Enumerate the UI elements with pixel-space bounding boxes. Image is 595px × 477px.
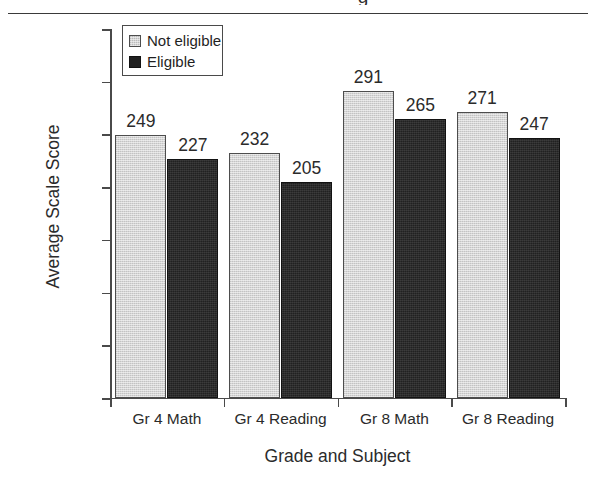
- legend-entry-not-eligible: Not eligible: [129, 30, 217, 51]
- bar-gr-4-reading-eligible: [281, 182, 332, 398]
- bar-value-label: 291: [337, 67, 400, 88]
- y-axis-title: Average Scale Score: [43, 57, 64, 357]
- legend-label-eligible: Eligible: [147, 53, 195, 70]
- bar-value-label: 249: [109, 111, 172, 132]
- x-axis-title: Grade and Subject: [110, 446, 565, 467]
- clipped-title-descender: g: [352, 0, 374, 5]
- x-category-label: Gr 8 Reading: [451, 410, 565, 428]
- x-tick-mark: [224, 398, 226, 407]
- top-divider-rule: [8, 13, 588, 14]
- bar-value-label: 205: [275, 158, 338, 179]
- x-category-label: Gr 4 Reading: [224, 410, 338, 428]
- x-tick-mark: [451, 398, 453, 407]
- bar-gr-4-reading-not-eligible: [229, 153, 280, 398]
- x-category-label: Gr 4 Math: [110, 410, 224, 428]
- bar-gr-8-math-not-eligible: [343, 91, 394, 398]
- chart-legend: Not eligible Eligible: [122, 25, 223, 76]
- bar-gr-8-reading-not-eligible: [457, 112, 508, 398]
- bar-value-label: 247: [503, 114, 566, 135]
- light-gray-swatch-icon: [129, 35, 141, 47]
- bar-value-label: 265: [389, 95, 452, 116]
- bar-value-label: 227: [161, 135, 224, 156]
- bar-value-label: 271: [451, 88, 514, 109]
- x-category-label: Gr 8 Math: [338, 410, 452, 428]
- dark-swatch-icon: [129, 56, 141, 68]
- legend-label-not-eligible: Not eligible: [147, 32, 221, 49]
- legend-entry-eligible: Eligible: [129, 51, 217, 72]
- x-axis-end-tick: [565, 398, 567, 407]
- x-tick-mark: [338, 398, 340, 407]
- bar-gr-8-reading-eligible: [509, 138, 560, 398]
- bar-value-label: 232: [223, 129, 286, 150]
- bar-gr-4-math-not-eligible: [115, 135, 166, 398]
- chart-figure: g 050100150200250300350 Average Scale Sc…: [0, 0, 595, 477]
- x-axis-end-tick: [110, 398, 112, 407]
- bar-gr-8-math-eligible: [395, 119, 446, 398]
- bar-gr-4-math-eligible: [167, 159, 218, 398]
